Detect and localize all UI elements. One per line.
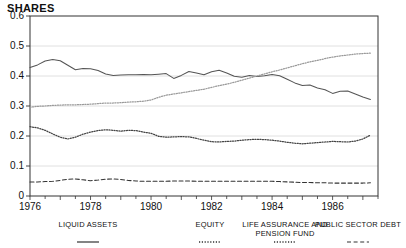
series-line-1 (30, 53, 370, 107)
series-line-0 (30, 60, 370, 100)
y-axis-tick-label: 0.2 (0, 130, 24, 141)
gridlines (30, 46, 378, 166)
x-axis-tick-label: 1982 (192, 201, 232, 212)
y-axis-ticks (26, 16, 30, 196)
y-axis-tick-label: 0.5 (0, 40, 24, 51)
data-series-group (30, 53, 370, 183)
x-axis-tick-label: 1980 (131, 201, 171, 212)
x-axis-tick-label: 1978 (71, 201, 111, 212)
y-axis-tick-label: 0 (0, 190, 24, 201)
legend-swatch-solid (77, 239, 99, 245)
x-axis-tick-label: 1984 (252, 201, 292, 212)
legend-swatch-dashed (347, 239, 369, 245)
series-line-2 (30, 127, 370, 144)
legend-swatch-dotted (199, 239, 221, 245)
y-axis-tick-label: 0.1 (0, 160, 24, 171)
x-axis-tick-label: 1976 (10, 201, 50, 212)
legend-item-label: LIQUID ASSETS (33, 221, 143, 230)
x-axis-tick-label: 1986 (313, 201, 353, 212)
series-line-3 (30, 179, 370, 183)
x-axis-ticks (30, 196, 378, 200)
y-axis-tick-label: 0.6 (0, 10, 24, 21)
legend-item-label: PUBLIC SECTOR DEBT (303, 221, 406, 230)
legend-swatch-dotted (274, 239, 296, 245)
y-axis-tick-label: 0.4 (0, 70, 24, 81)
y-axis-tick-label: 0.3 (0, 100, 24, 111)
